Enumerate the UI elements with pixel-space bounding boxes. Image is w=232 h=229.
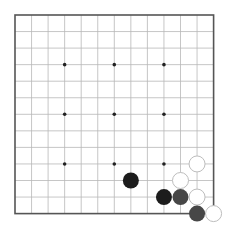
white-stone[interactable] bbox=[173, 173, 189, 189]
star-point bbox=[162, 63, 166, 67]
star-point bbox=[162, 162, 166, 166]
star-point bbox=[113, 162, 117, 166]
star-point bbox=[113, 113, 117, 117]
star-point bbox=[162, 113, 166, 117]
black-stone[interactable] bbox=[123, 173, 139, 189]
star-point bbox=[63, 113, 67, 117]
white-stone[interactable] bbox=[189, 156, 205, 172]
gray-stone[interactable] bbox=[173, 189, 189, 205]
white-stone[interactable] bbox=[206, 206, 222, 222]
star-point bbox=[63, 162, 67, 166]
black-stone[interactable] bbox=[156, 189, 172, 205]
go-board[interactable] bbox=[0, 0, 232, 229]
star-point bbox=[113, 63, 117, 67]
stones-layer bbox=[123, 156, 222, 222]
gray-stone[interactable] bbox=[189, 206, 205, 222]
star-point bbox=[63, 63, 67, 67]
white-stone[interactable] bbox=[189, 189, 205, 205]
